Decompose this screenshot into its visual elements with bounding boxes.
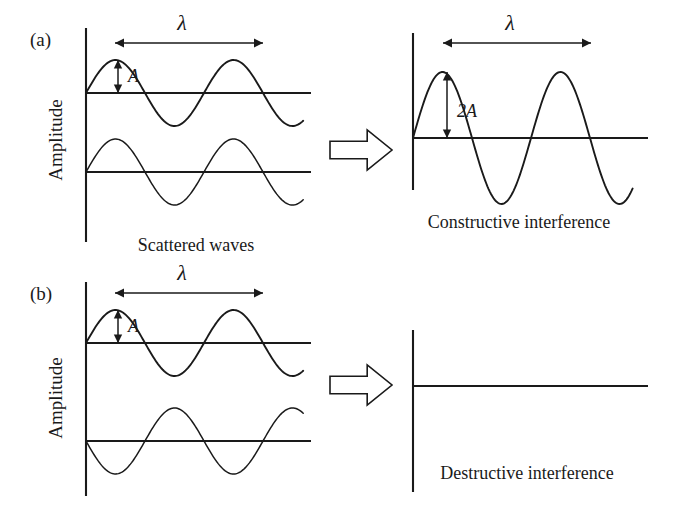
figure-background [0,0,700,524]
input-caption-a: Scattered waves [138,235,254,255]
amplitude-dimension-a-out-label: 2A [457,101,478,121]
output-caption-b: Destructive interference [440,463,613,483]
amplitude-axis-title-a: Amplitude [45,99,66,180]
amplitude-axis-title-b: Amplitude [45,357,66,438]
wavelength-dimension-b-in-label: λ [176,260,187,285]
wave-interference-figure: (a)AmplitudeλAScattered wavesλ2AConstruc… [0,0,700,524]
panel-label-b: (b) [30,283,52,305]
wavelength-dimension-a-out-label: λ [504,10,515,35]
amplitude-dimension-b-in-label: A [127,316,140,336]
panel-label-a: (a) [30,29,51,51]
amplitude-dimension-a-in-label: A [127,66,140,86]
output-caption-a: Constructive interference [428,212,610,232]
wavelength-dimension-a-in-label: λ [176,10,187,35]
